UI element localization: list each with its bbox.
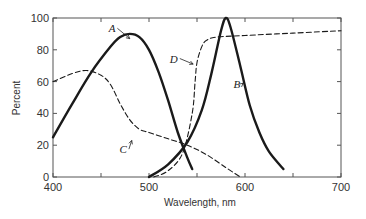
- spectral-chart: 400500600700 020406080100 ABCD Wavelengt…: [0, 0, 366, 219]
- x-tick-label: 700: [332, 181, 350, 193]
- plot-frame: [53, 18, 341, 177]
- plot-border: [53, 18, 341, 177]
- y-tick-label: 60: [37, 76, 49, 88]
- y-axis-label: Percent: [11, 81, 22, 116]
- x-axis-ticks: 400500600700: [44, 18, 350, 193]
- y-tick-label: 100: [31, 12, 49, 24]
- y-tick-label: 20: [37, 139, 49, 151]
- y-tick-label: 40: [37, 107, 49, 119]
- x-tick-label: 600: [236, 181, 254, 193]
- curve-label-d: D: [169, 53, 178, 65]
- x-axis-label: Wavelength, nm: [164, 197, 236, 208]
- curve-b: [149, 18, 283, 177]
- curve-label-a: A: [108, 22, 116, 34]
- y-tick-label: 80: [37, 44, 49, 56]
- curve-labels: ABCD: [108, 22, 243, 155]
- x-tick-label: 500: [140, 181, 158, 193]
- y-tick-label: 0: [43, 171, 49, 183]
- curve-label-c: C: [120, 143, 128, 155]
- curves: [53, 18, 341, 177]
- curve-d: [154, 31, 341, 177]
